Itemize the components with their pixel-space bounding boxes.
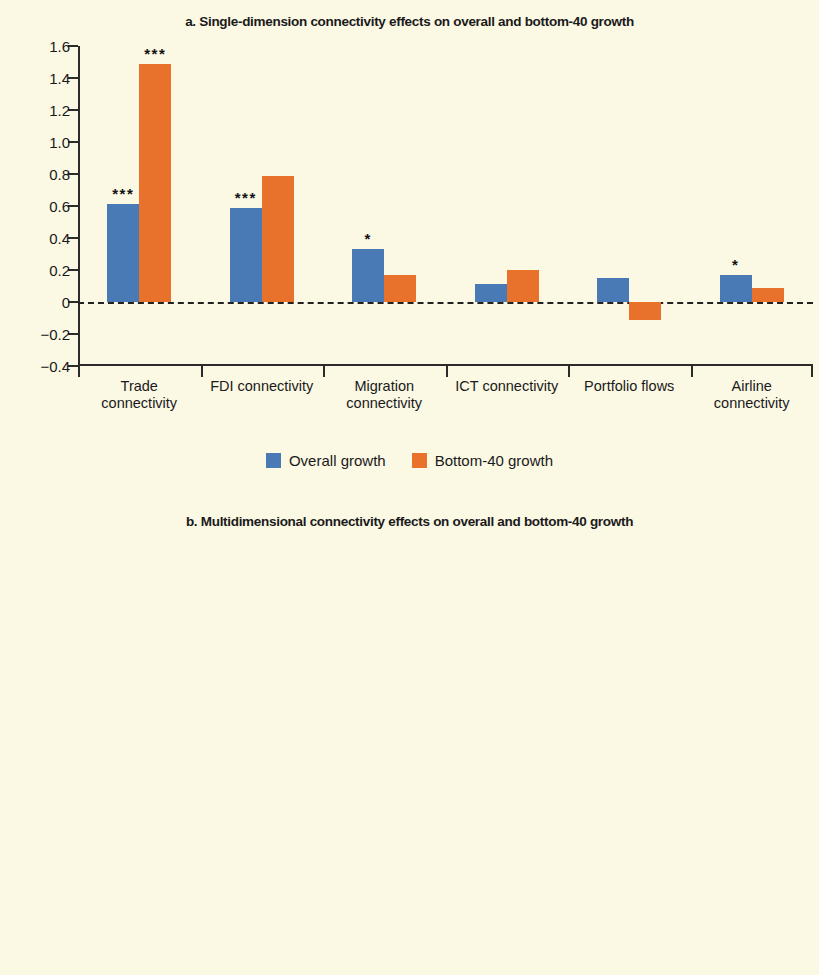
y-axis-tick-label: 1.6: [49, 38, 70, 55]
legend-label: Overall growth: [289, 452, 386, 469]
y-axis-tick-label: 0.6: [49, 198, 70, 215]
chart-a-y-axis: [78, 46, 80, 366]
category-label-line: connectivity: [101, 395, 177, 412]
bar-bottom-40-growth-1: [262, 176, 294, 302]
chart-a-legend: Overall growthBottom-40 growth: [0, 452, 819, 469]
legend-label: Bottom-40 growth: [435, 452, 553, 469]
legend-swatch-icon: [266, 453, 281, 468]
x-axis-tick-mark: [201, 366, 203, 377]
panel-a-title: a. Single-dimension connectivity effects…: [0, 0, 819, 29]
x-axis-category-label: Airlineconnectivity: [714, 378, 790, 412]
panel-b-title: b. Multidimensional connectivity effects…: [0, 500, 819, 529]
category-label-line: Portfolio flows: [584, 378, 674, 395]
x-axis-tick-mark: [323, 366, 325, 377]
y-axis-tick-label: 0: [62, 294, 70, 311]
bar-overall-growth-4: [597, 278, 629, 302]
legend-item[interactable]: Bottom-40 growth: [412, 452, 553, 469]
y-axis-tick-label: −0.4: [40, 358, 70, 375]
y-axis-tick-label: 1.2: [49, 102, 70, 119]
category-label-line: Migration: [346, 378, 422, 395]
x-axis-tick-mark: [78, 366, 80, 377]
x-axis-category-label: Tradeconnectivity: [101, 378, 177, 412]
y-axis-tick-label: 0.4: [49, 230, 70, 247]
bar-overall-growth-5: *: [720, 275, 752, 302]
bar-overall-growth-1: ***: [230, 208, 262, 302]
category-label-line: connectivity: [346, 395, 422, 412]
significance-marker: ***: [144, 46, 166, 61]
bar-bottom-40-growth-5: [752, 288, 784, 302]
category-label-line: Airline: [714, 378, 790, 395]
x-axis-tick-mark: [811, 366, 813, 377]
x-axis-category-label: Migrationconnectivity: [346, 378, 422, 412]
category-label-line: connectivity: [714, 395, 790, 412]
category-label-line: FDI connectivity: [210, 378, 313, 395]
bar-overall-growth-2: *: [352, 249, 384, 302]
panel-b: b. Multidimensional connectivity effects…: [0, 500, 819, 975]
significance-marker: *: [365, 231, 372, 246]
category-label-line: Trade: [101, 378, 177, 395]
bar-bottom-40-growth-2: [384, 275, 416, 302]
chart-a-plot-area: 1.61.41.21.00.80.60.40.20−0.2−0.4 ******…: [78, 46, 813, 366]
bar-bottom-40-growth-3: [507, 270, 539, 302]
category-label-line: ICT connectivity: [455, 378, 558, 395]
y-axis-tick-label: 0.8: [49, 166, 70, 183]
x-axis-category-label: ICT connectivity: [455, 378, 558, 395]
significance-marker: ***: [235, 190, 257, 205]
bar-overall-growth-0: ***: [107, 204, 139, 302]
legend-item[interactable]: Overall growth: [266, 452, 386, 469]
y-axis-tick-label: 1.0: [49, 134, 70, 151]
significance-marker: *: [732, 257, 739, 272]
x-axis-tick-mark: [446, 366, 448, 377]
y-axis-tick-label: 0.2: [49, 262, 70, 279]
y-axis-tick-label: 1.4: [49, 70, 70, 87]
x-axis-category-label: FDI connectivity: [210, 378, 313, 395]
x-axis-tick-mark: [691, 366, 693, 377]
y-axis-tick-label: −0.2: [40, 326, 70, 343]
chart-a-zero-line: [78, 302, 813, 304]
bar-bottom-40-growth-0: ***: [139, 64, 171, 302]
bar-bottom-40-growth-4: [629, 302, 661, 320]
x-axis-tick-mark: [568, 366, 570, 377]
legend-swatch-icon: [412, 453, 427, 468]
panel-a: a. Single-dimension connectivity effects…: [0, 0, 819, 490]
significance-marker: ***: [112, 186, 134, 201]
bar-overall-growth-3: [475, 284, 507, 302]
x-axis-category-label: Portfolio flows: [584, 378, 674, 395]
